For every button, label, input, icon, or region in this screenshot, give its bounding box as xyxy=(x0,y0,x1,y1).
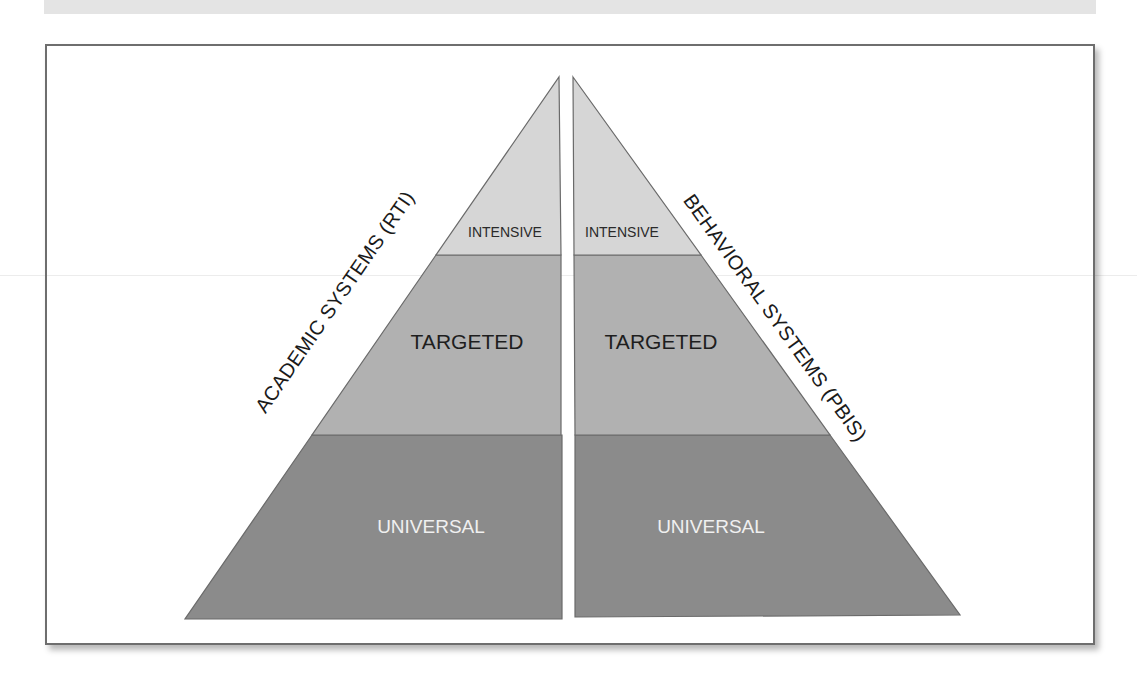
pyramid-diagram xyxy=(0,0,1137,683)
left-intensive-label: INTENSIVE xyxy=(468,224,542,240)
right-intensive-label: INTENSIVE xyxy=(585,224,659,240)
left-targeted-label: TARGETED xyxy=(411,330,524,354)
left-universal-label: UNIVERSAL xyxy=(377,516,485,538)
right-targeted-label: TARGETED xyxy=(605,330,718,354)
right-universal-label: UNIVERSAL xyxy=(657,516,765,538)
left-tier-universal xyxy=(185,435,562,619)
right-tier-universal xyxy=(575,435,960,617)
